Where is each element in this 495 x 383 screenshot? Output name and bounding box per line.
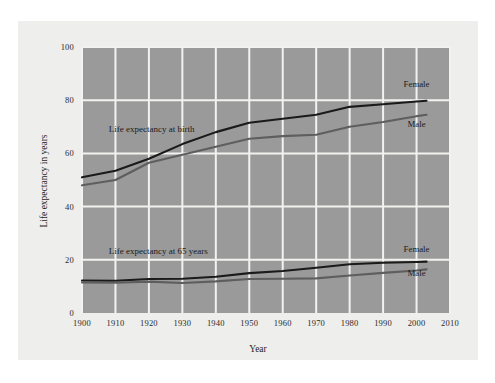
x-tick-label: 1980 xyxy=(341,318,359,328)
life-expectancy-line-chart: 1900191019201930194019501960197019801990… xyxy=(18,21,478,360)
y-tick-label: 40 xyxy=(65,202,74,212)
x-tick-label: 1940 xyxy=(207,318,225,328)
x-tick-label: 1990 xyxy=(374,318,392,328)
plot-area-background xyxy=(82,47,450,313)
x-tick-label: 1900 xyxy=(73,318,91,328)
series-label-male: Male xyxy=(408,119,426,129)
y-tick-label: 20 xyxy=(65,255,74,265)
y-axis-tick-labels: 020406080100 xyxy=(61,42,74,318)
annotation-label: Life expectancy at 65 years xyxy=(109,246,208,256)
y-tick-label: 100 xyxy=(61,42,74,52)
x-tick-label: 1970 xyxy=(307,318,325,328)
x-axis-title: Year xyxy=(249,344,267,354)
y-tick-label: 60 xyxy=(65,148,74,158)
series-label-male: Male xyxy=(408,268,426,278)
x-tick-label: 1910 xyxy=(107,318,125,328)
x-tick-label: 1920 xyxy=(140,318,158,328)
annotation-label: Life expectancy at birth xyxy=(109,124,195,134)
x-tick-label: 1950 xyxy=(240,318,258,328)
y-axis-title: Life expectancy in years xyxy=(39,134,49,227)
series-label-female: Female xyxy=(404,79,430,89)
y-tick-label: 80 xyxy=(65,95,74,105)
x-tick-label: 2010 xyxy=(441,318,459,328)
figure-root: 1900191019201930194019501960197019801990… xyxy=(0,0,495,383)
chart-figure-panel: 1900191019201930194019501960197019801990… xyxy=(18,21,478,360)
y-tick-label: 0 xyxy=(70,308,74,318)
x-tick-label: 2000 xyxy=(408,318,426,328)
series-label-female: Female xyxy=(404,244,430,254)
x-axis-tick-labels: 1900191019201930194019501960197019801990… xyxy=(73,318,459,328)
x-tick-label: 1930 xyxy=(173,318,191,328)
x-tick-label: 1960 xyxy=(274,318,292,328)
